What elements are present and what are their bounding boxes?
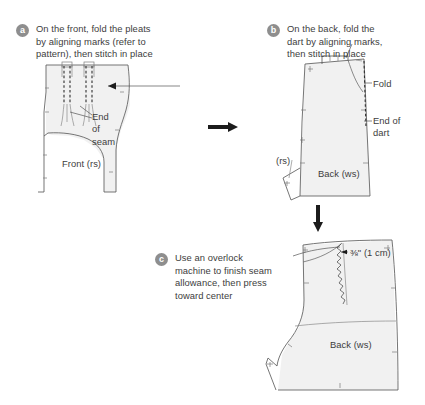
step-c-text: Use an overlock machine to finish seam a… (175, 252, 272, 302)
annotation-back-ws-panel-c: Back (ws) (330, 339, 392, 351)
sewing-instruction-diagram: a On the front, fold the pleats by align… (0, 0, 425, 405)
step-marker-c: c (155, 253, 168, 266)
annotation-seam-allowance: ⅜" (1 cm) (350, 247, 420, 259)
step-c-caption: c Use an overlock machine to finish seam… (155, 252, 303, 302)
